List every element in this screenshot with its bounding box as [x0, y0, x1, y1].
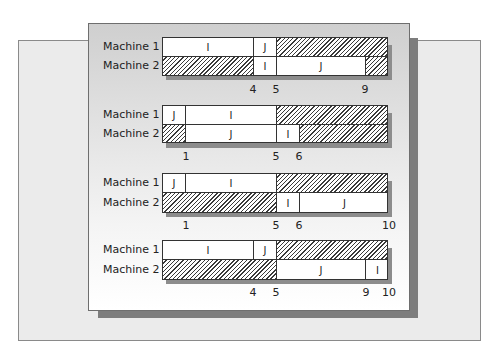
time-tick: 9 — [362, 83, 369, 96]
segment-job-j: J — [163, 106, 186, 125]
machine-2-row: J I — [163, 260, 387, 280]
time-tick: 10 — [382, 219, 396, 232]
gantt-schedule-4: Machine 1 Machine 2 I J J I 4 5 9 10 — [0, 240, 499, 310]
segment-job-i: I — [366, 260, 388, 280]
segment-job-j: J — [186, 125, 277, 143]
time-tick: 5 — [273, 286, 280, 299]
machine-1-row: J I — [163, 106, 387, 125]
segment-job-i: I — [186, 106, 277, 125]
time-tick: 10 — [382, 286, 396, 299]
time-tick: 4 — [250, 286, 257, 299]
machine-1-label: Machine 1 — [103, 176, 159, 189]
machine-2-row: J I — [163, 125, 387, 143]
segment-job-i: I — [277, 125, 300, 143]
machine-2-label: Machine 2 — [103, 127, 159, 140]
segment-idle — [277, 241, 388, 260]
gantt-bar: J I I J — [162, 173, 388, 213]
segment-idle — [277, 38, 388, 57]
time-tick: 5 — [273, 150, 280, 163]
segment-idle — [163, 125, 186, 143]
segment-job-j: J — [254, 38, 277, 57]
segment-job-j: J — [277, 57, 366, 76]
gantt-bar: I J J I — [162, 240, 388, 280]
gantt-bar: I J I J — [162, 37, 388, 76]
machine-1-label: Machine 1 — [103, 108, 159, 121]
time-tick: 6 — [296, 219, 303, 232]
time-tick: 5 — [273, 83, 280, 96]
segment-job-i: I — [186, 174, 277, 193]
machine-2-row: I J — [163, 193, 387, 213]
gantt-schedule-3: Machine 1 Machine 2 J I I J 1 5 6 10 — [0, 173, 499, 243]
segment-job-j: J — [254, 241, 277, 260]
time-tick: 9 — [363, 286, 370, 299]
time-tick: 1 — [183, 150, 190, 163]
segment-idle — [163, 260, 277, 280]
segment-idle — [163, 57, 254, 76]
machine-2-label: Machine 2 — [103, 196, 159, 209]
gantt-schedule-1: Machine 1 Machine 2 I J I J 4 5 9 — [0, 37, 499, 107]
machine-1-row: I J — [163, 38, 387, 57]
machine-1-row: J I — [163, 174, 387, 193]
machine-1-label: Machine 1 — [103, 243, 159, 256]
segment-job-j: J — [163, 174, 186, 193]
time-tick: 5 — [273, 219, 280, 232]
segment-job-i: I — [254, 57, 277, 76]
machine-2-label: Machine 2 — [103, 263, 159, 276]
time-tick: 6 — [296, 150, 303, 163]
segment-idle — [163, 193, 277, 213]
time-tick: 1 — [183, 219, 190, 232]
time-tick: 4 — [250, 83, 257, 96]
machine-1-label: Machine 1 — [103, 40, 159, 53]
segment-job-i: I — [163, 241, 254, 260]
machine-2-row: I J — [163, 57, 387, 76]
segment-idle — [366, 57, 388, 76]
segment-job-j: J — [277, 260, 366, 280]
machine-1-row: I J — [163, 241, 387, 260]
segment-job-i: I — [163, 38, 254, 57]
segment-job-j: J — [300, 193, 388, 213]
machine-2-label: Machine 2 — [103, 59, 159, 72]
gantt-bar: J I J I — [162, 105, 388, 143]
segment-idle — [277, 174, 388, 193]
segment-idle — [277, 106, 388, 125]
segment-idle — [300, 125, 388, 143]
segment-job-i: I — [277, 193, 300, 213]
gantt-schedule-2: Machine 1 Machine 2 J I J I 1 5 6 — [0, 105, 499, 175]
